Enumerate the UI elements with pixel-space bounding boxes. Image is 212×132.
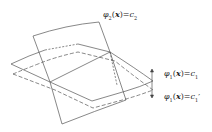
equals: = [184,92,191,101]
subscript: 1 [170,74,173,80]
equals: = [184,69,191,78]
label-phi1-c1: φ1(x)=c1 [164,69,198,80]
label-phi1-c1prime: φ1(x)=c1′ [164,92,200,103]
variable-x: x [176,91,181,101]
label-phi2-c2: φ2(x)=c2 [103,10,137,21]
subscript: 2 [109,15,112,21]
variable-x: x [115,9,120,19]
arrow-head-down-icon [151,95,154,98]
prime-mark: ′ [198,92,200,101]
subscript: 1 [195,74,198,80]
variable-x: x [176,68,181,78]
arrow-head-up-icon [151,69,154,72]
surface-phi1-c1prime [13,52,153,108]
surface-phi1-c1 [11,44,153,101]
subscript: 2 [134,15,137,21]
subscript: 1 [170,97,173,103]
surface-phi2 [33,22,126,124]
surface-phi1-c1-hidden [45,44,78,50]
equals: = [123,10,130,19]
surface-phi2-hidden-edge [110,52,117,85]
